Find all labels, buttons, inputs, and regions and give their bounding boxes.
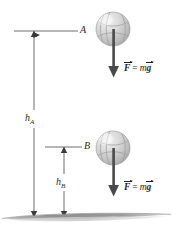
ball-B-highlight	[97, 133, 113, 145]
point-label-B: B	[84, 141, 90, 151]
force-A-vector-g: g	[147, 64, 152, 74]
ground-line	[2, 213, 171, 221]
physics-diagram-gravity: A B hA hB F=mg F=mg	[0, 0, 173, 239]
height-hA-subscript: A	[30, 118, 34, 126]
dimension-hB-upper-arrowhead	[61, 147, 67, 154]
height-label-hA: hA	[25, 113, 34, 126]
dimension-hA-upper-arrowhead	[31, 31, 37, 38]
height-label-hB: hB	[56, 177, 65, 190]
force-A-mass-m: m	[140, 63, 147, 73]
force-B-mass-m: m	[140, 182, 147, 192]
force-A-equals: =	[132, 63, 137, 73]
force-equation-A: F=mg	[124, 64, 151, 74]
force-B-equals: =	[132, 182, 137, 192]
force-A-vector-F: F	[124, 64, 130, 74]
force-equation-B: F=mg	[124, 183, 151, 193]
force-B-vector-F: F	[124, 183, 130, 193]
ball-A-highlight	[97, 14, 113, 26]
point-label-A: A	[80, 25, 86, 35]
force-B-vector-g: g	[147, 183, 152, 193]
height-hB-subscript: B	[61, 182, 65, 190]
